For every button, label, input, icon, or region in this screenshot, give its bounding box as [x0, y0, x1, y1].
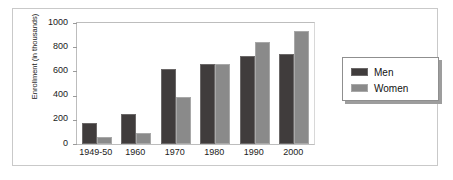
y-tick-label: 200: [53, 113, 68, 124]
legend-swatch-women-icon: [351, 84, 368, 92]
bar-group: [82, 23, 112, 144]
bar-men-1990[interactable]: [240, 56, 255, 144]
x-tick-label: 1980: [204, 147, 224, 157]
y-tick-label: 1000: [48, 17, 68, 28]
bar-men-1949-50[interactable]: [82, 123, 97, 144]
bar-women-1960[interactable]: [136, 133, 151, 144]
legend-swatch-men-icon: [351, 68, 368, 76]
bar-men-1980[interactable]: [200, 64, 215, 144]
bar-women-1980[interactable]: [215, 64, 230, 144]
x-tick-label: 1960: [125, 147, 145, 157]
y-tick-mark: [73, 47, 77, 48]
y-axis-tick-labels: 02004006008001000: [40, 16, 71, 149]
y-tick-mark: [73, 96, 77, 97]
x-tick-label: 1970: [165, 147, 185, 157]
bar-women-1970[interactable]: [176, 97, 191, 144]
y-tick-mark: [73, 71, 77, 72]
plot-area: [76, 22, 315, 145]
y-tick-mark: [73, 144, 77, 145]
bar-women-1990[interactable]: [255, 42, 270, 144]
chart-figure: Enrollment (in thousands) 02004006008001…: [0, 0, 453, 180]
bar-men-1970[interactable]: [161, 69, 176, 144]
legend-item-men[interactable]: Men: [351, 65, 393, 79]
bar-group: [200, 23, 230, 144]
y-tick-mark: [73, 120, 77, 121]
x-tick-label: 2000: [283, 147, 303, 157]
bar-group: [240, 23, 270, 144]
y-tick-label: 800: [53, 41, 68, 52]
bar-men-2000[interactable]: [279, 54, 294, 144]
y-tick-mark: [73, 23, 77, 24]
legend-label-men: Men: [374, 67, 393, 78]
x-tick-label: 1949-50: [79, 147, 112, 157]
x-tick-label: 1990: [244, 147, 264, 157]
bar-group: [121, 23, 151, 144]
y-tick-label: 600: [53, 65, 68, 76]
bar-group: [279, 23, 309, 144]
bar-men-1960[interactable]: [121, 114, 136, 144]
y-axis-title: Enrollment (in thousands): [30, 0, 39, 117]
bar-women-1949-50[interactable]: [97, 137, 112, 144]
x-axis-tick-labels: 1949-5019601970198019902000: [76, 147, 313, 161]
legend-item-women[interactable]: Women: [351, 81, 408, 95]
bar-women-2000[interactable]: [294, 31, 309, 144]
plot-inner: [77, 23, 314, 144]
y-tick-label: 400: [53, 89, 68, 100]
chart-legend: Men Women: [342, 57, 439, 101]
bar-group: [161, 23, 191, 144]
legend-label-women: Women: [374, 83, 408, 94]
y-tick-label: 0: [63, 138, 68, 149]
